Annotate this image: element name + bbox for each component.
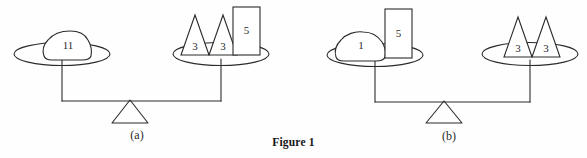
panel-b-right-pan: 3 3 — [482, 17, 578, 66]
panel-b: 1 5 3 3 (b) — [327, 9, 578, 143]
panel-b-rectangle-label-5: 5 — [396, 27, 402, 39]
panel-a-triangle-label-right-3: 3 — [220, 40, 226, 52]
panel-b-balance-frame — [375, 60, 530, 123]
panel-b-left-pan: 1 5 — [327, 9, 423, 67]
panel-a: 11 3 3 5 (a) — [14, 7, 269, 142]
panel-a-fulcrum-triangle — [112, 100, 148, 123]
panel-b-triangle-label-right-3: 3 — [543, 42, 549, 54]
panel-a-rectangle-label-5: 5 — [244, 24, 250, 36]
panel-b-blob-label-1: 1 — [358, 39, 364, 51]
panel-a-left-pan: 11 — [14, 31, 110, 66]
balance-scales-illustration: 11 3 3 5 (a) — [0, 0, 587, 158]
figure-title: Figure 1 — [0, 136, 587, 148]
panel-a-blob-label-11: 11 — [63, 39, 74, 51]
figure-1-container: 11 3 3 5 (a) — [0, 0, 587, 158]
panel-a-right-pan: 3 3 5 — [173, 7, 269, 66]
panel-b-fulcrum-triangle — [426, 101, 462, 123]
panel-a-balance-frame — [62, 59, 221, 123]
panel-a-triangle-label-left-3: 3 — [192, 40, 198, 52]
panel-b-triangle-label-left-3: 3 — [515, 42, 521, 54]
